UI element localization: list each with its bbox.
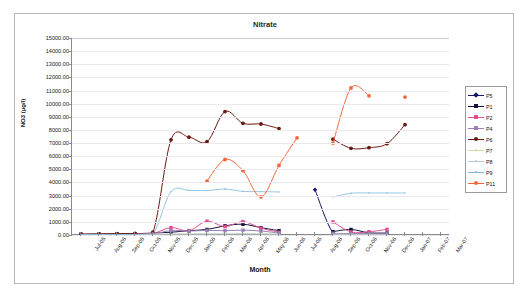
x-tick-label: Aug-06 [328,236,343,254]
x-tick-label: Sep-05 [130,236,145,254]
series-line [333,86,369,143]
series-lines [72,38,450,235]
y-tick-label: 7000.00 [49,140,69,146]
x-tick-mark [350,232,351,236]
data-point [386,192,387,193]
x-tick-mark [440,232,441,236]
chart-legend[interactable]: P5P1P2P4P6P7P8P9P11 [465,86,507,193]
x-tick-mark [116,232,117,236]
plot-area [71,38,449,235]
x-tick-mark [224,232,225,236]
legend-item-P7[interactable]: P7 [468,145,504,156]
grid-line [72,38,449,39]
x-tick-mark [260,232,261,236]
x-tick-label: May-06 [275,236,290,254]
legend-item-P6[interactable]: P6 [468,134,504,145]
legend-label: P5 [484,93,493,99]
x-tick-mark [242,232,243,236]
grid-line [72,182,449,183]
x-tick-label: Mar-06 [238,236,253,253]
grid-line [72,196,449,197]
x-tick-mark [422,232,423,236]
grid-line [72,64,449,65]
data-point [295,136,299,140]
x-axis-tick-labels: Jul-05Aug-05Sep-05Oct-05Nov-05Dec-05Jan-… [71,236,449,270]
data-point [313,187,317,191]
grid-line [72,169,449,170]
series-line [207,138,297,197]
y-tick-label: 10000.00 [46,101,69,107]
data-point [169,138,173,142]
grid-line [72,91,449,92]
ghost-text [0,1,2,7]
y-tick-label: 15000.00 [46,35,69,41]
grid-line [72,156,449,157]
grid-line [72,209,449,210]
data-point [350,193,351,194]
y-tick-label: 12000.00 [46,74,69,80]
x-tick-label: Sep-06 [346,236,361,254]
data-point [187,135,191,139]
grid-line [72,143,449,144]
legend-swatch-icon [468,91,484,100]
y-tick-label: 5000.00 [49,166,69,172]
series-line [81,221,279,234]
x-tick-label: Dec-05 [184,236,199,254]
data-point [188,190,189,191]
x-tick-label: Nov-06 [382,236,397,254]
top-ghost-strip [0,0,529,13]
x-tick-mark [206,232,207,236]
data-point [241,121,245,125]
data-point [349,146,353,150]
y-tick-label: 11000.00 [46,88,69,94]
grid-line [72,117,449,118]
y-tick-label: 13000.00 [46,61,69,67]
legend-label: P7 [484,148,493,154]
legend-item-P11[interactable]: P11 [468,178,504,189]
y-axis-tick-labels: 15000.0014000.0013000.0012000.0011000.00… [15,38,69,235]
legend-item-P9[interactable]: P9 [468,167,504,178]
legend-swatch-icon [468,179,484,188]
data-point [223,110,227,114]
x-tick-mark [278,232,279,236]
legend-swatch-icon [468,135,484,144]
legend-swatch-icon [468,168,484,177]
x-tick-label: Jan-07 [418,236,432,253]
x-tick-label: Jan-06 [202,236,216,253]
data-point [403,95,407,99]
data-point [277,163,281,167]
x-tick-mark [332,232,333,236]
x-tick-mark [170,232,171,236]
data-point [367,146,371,150]
chart-container: Nitrate NO3 (µg/l) 15000.0014000.0013000… [14,13,514,284]
y-tick-label: 2000.00 [49,206,69,212]
x-tick-label: Feb-06 [220,236,235,253]
legend-item-P2[interactable]: P2 [468,112,504,123]
legend-item-P1[interactable]: P1 [468,101,504,112]
x-tick-mark [314,232,315,236]
legend-label: P2 [484,115,493,121]
y-tick-label: 3000.00 [49,193,69,199]
data-point [206,190,207,191]
x-tick-mark [188,232,189,236]
data-point [349,86,353,90]
legend-item-P8[interactable]: P8 [468,156,504,167]
legend-item-P5[interactable]: P5 [468,90,504,101]
y-tick-label: 6000.00 [49,153,69,159]
x-tick-label: Aug-05 [112,236,127,254]
x-tick-label: Jul-06 [309,236,322,251]
legend-swatch-icon [468,113,484,122]
legend-item-P4[interactable]: P4 [468,123,504,134]
x-tick-label: Apr-06 [256,236,270,253]
x-tick-label: Nov-05 [166,236,181,254]
x-tick-label: Oct-05 [148,236,162,253]
data-point [223,225,226,228]
y-tick-label: 0.00 [58,232,69,238]
legend-swatch-icon [468,146,484,155]
legend-swatch-icon [468,157,484,166]
x-axis-title: Month [71,266,449,273]
legend-label: P4 [484,126,493,132]
x-tick-label: Jul-05 [93,236,106,251]
y-tick-label: 9000.00 [49,114,69,120]
data-point [223,158,227,162]
